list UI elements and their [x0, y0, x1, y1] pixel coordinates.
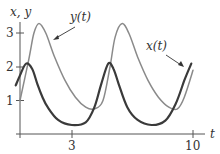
annotation-x-label: x(t)	[146, 39, 167, 53]
x-tick-label-10: 10	[185, 139, 200, 153]
y-tick-label-3: 3	[6, 26, 14, 40]
annotation-x-arrowhead-icon	[178, 61, 184, 67]
annotation-x-arrow	[166, 55, 181, 65]
series-x-curve	[16, 63, 192, 125]
y-axis-label: x, y	[10, 5, 31, 19]
x-axis-label: t	[210, 127, 215, 141]
y-tick-label-2: 2	[6, 60, 14, 74]
y-tick-label-1: 1	[6, 94, 14, 108]
x-tick-label-3: 3	[68, 139, 76, 153]
annotation-y-arrow	[56, 27, 75, 38]
annotation-y-label: y(t)	[69, 10, 91, 24]
annotation-y-arrowhead-icon	[53, 35, 59, 40]
chart-canvas: 3 2 1 3 10 x, y t y(t) x(t)	[0, 0, 220, 154]
